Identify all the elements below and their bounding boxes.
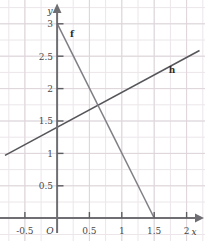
- y-tick-label-1: 1: [47, 149, 53, 159]
- x-axis-label: x: [191, 227, 196, 237]
- y-tick-label-2: 1.5: [39, 116, 54, 126]
- y-axis-label: y: [46, 6, 53, 16]
- y-tick-label-3: 2: [47, 84, 53, 94]
- y-tick-label-5: 3: [47, 19, 53, 29]
- curve-label-h: h: [169, 65, 176, 75]
- x-tick-label-4: 2: [184, 226, 190, 236]
- graph-canvas: 0.5 1 1.5 2 2.5 3 -0.5 0.5 1 1.5 2 O x y…: [0, 0, 205, 241]
- x-tick-label-0: -0.5: [16, 226, 34, 236]
- coordinate-plane-figure: 0.5 1 1.5 2 2.5 3 -0.5 0.5 1 1.5 2 O x y…: [0, 0, 205, 241]
- x-tick-label-2: 1: [119, 226, 125, 236]
- x-tick-label-1: 0.5: [82, 226, 97, 236]
- y-tick-label-0: 0.5: [39, 181, 54, 191]
- y-tick-label-4: 2.5: [39, 52, 54, 62]
- origin-label: O: [46, 226, 54, 236]
- x-tick-label-3: 1.5: [147, 226, 162, 236]
